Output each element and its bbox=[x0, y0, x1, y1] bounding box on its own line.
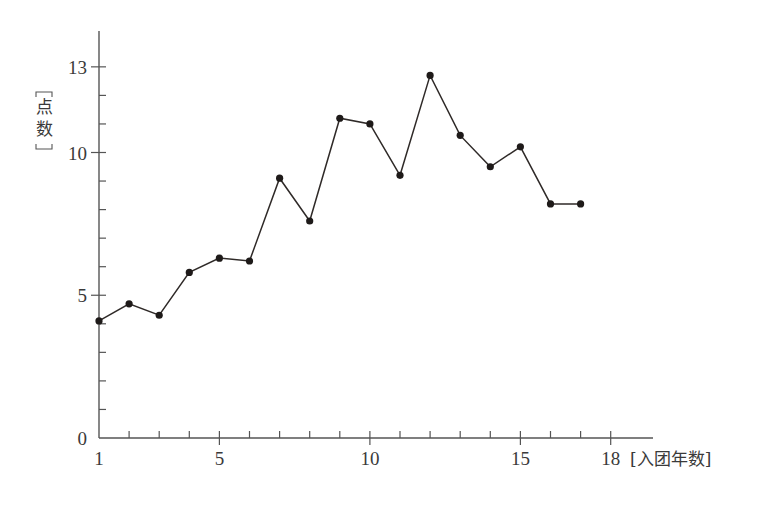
data-point bbox=[156, 312, 163, 319]
data-point bbox=[246, 257, 253, 264]
x-tick-label: 5 bbox=[215, 448, 225, 469]
line-chart: 051013 15101518 点数 [入团年数] bbox=[0, 0, 765, 507]
data-point bbox=[366, 120, 373, 127]
data-point bbox=[547, 200, 554, 207]
x-tick-label: 1 bbox=[94, 448, 104, 469]
data-point bbox=[276, 175, 283, 182]
data-point bbox=[95, 317, 102, 324]
data-point bbox=[126, 300, 133, 307]
x-tick-label: 10 bbox=[360, 448, 379, 469]
y-title-bracket-bottom bbox=[36, 144, 52, 149]
y-tick-label: 13 bbox=[68, 57, 87, 78]
y-tick-label: 10 bbox=[68, 143, 87, 164]
data-point bbox=[487, 163, 494, 170]
data-point bbox=[336, 115, 343, 122]
data-point bbox=[457, 132, 464, 139]
data-point bbox=[517, 143, 524, 150]
data-series bbox=[95, 72, 584, 325]
x-axis-title: [入团年数] bbox=[630, 449, 711, 469]
x-axis-title: [入团年数] bbox=[630, 449, 711, 469]
x-axis: 15101518 bbox=[94, 431, 653, 469]
data-point bbox=[427, 72, 434, 79]
data-point bbox=[306, 217, 313, 224]
data-point bbox=[186, 269, 193, 276]
data-point bbox=[396, 172, 403, 179]
x-tick-label: 15 bbox=[511, 448, 530, 469]
y-tick-label: 5 bbox=[78, 285, 88, 306]
y-axis: 051013 bbox=[68, 31, 106, 449]
y-tick-label: 0 bbox=[78, 428, 88, 449]
y-axis-title-char: 点 bbox=[36, 97, 53, 117]
x-tick-label: 18 bbox=[601, 448, 620, 469]
y-axis-title-char: 数 bbox=[36, 119, 53, 139]
series-line bbox=[99, 75, 581, 321]
data-point bbox=[577, 200, 584, 207]
data-point bbox=[216, 255, 223, 262]
y-axis-title: 点数 bbox=[36, 92, 53, 149]
